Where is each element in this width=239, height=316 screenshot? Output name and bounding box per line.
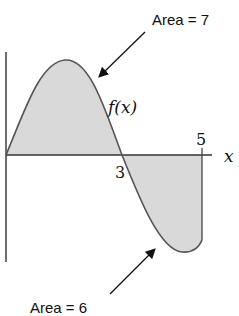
lower-area-label: Area = 6 [30, 299, 87, 316]
function-label: f(x) [106, 97, 137, 117]
area-diagram: Area = 7 Area = 6 f(x) x 3 5 [0, 0, 239, 316]
upper-area-label: Area = 7 [152, 11, 209, 28]
lower-area-arrow [110, 250, 154, 294]
x-axis-label: x [224, 146, 234, 166]
upper-area-arrow [100, 32, 145, 76]
tick-label-5: 5 [196, 130, 206, 149]
tick-label-3: 3 [115, 163, 125, 182]
